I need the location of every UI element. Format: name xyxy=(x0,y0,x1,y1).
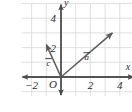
vector-label-a: a xyxy=(84,52,89,62)
vector-label-c: c xyxy=(47,58,51,68)
y-tick-label: 4 xyxy=(51,12,57,24)
x-tick-label: −2 xyxy=(25,79,38,91)
y-tick-label: 2 xyxy=(51,42,57,54)
annotation-O: O xyxy=(49,78,57,90)
annotation-y: y xyxy=(63,0,69,8)
annotation-x: x xyxy=(125,61,131,72)
x-tick-label: 4 xyxy=(117,79,123,91)
x-tick-label: 2 xyxy=(88,79,94,91)
vector-diagram-figure: ac−22424yxO xyxy=(0,0,132,112)
coordinate-plane-svg: ac−22424yxO xyxy=(0,0,132,112)
figure-background xyxy=(0,0,132,112)
